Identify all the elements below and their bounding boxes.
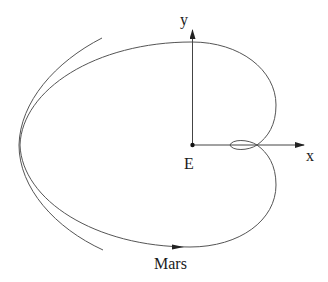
- origin-label: E: [184, 156, 194, 172]
- diagram-canvas: [0, 0, 328, 282]
- main-path-lower: [20, 145, 276, 247]
- x-axis-label: x: [306, 148, 314, 164]
- direction-arrow-icon: [172, 245, 184, 250]
- earth-origin-dot: [190, 143, 194, 147]
- main-path-upper: [20, 42, 276, 145]
- planet-label: Mars: [154, 256, 187, 272]
- y-axis-label: y: [180, 12, 188, 28]
- mars-path-diagram: y x E Mars: [0, 0, 328, 282]
- outer-arc: [19, 38, 103, 250]
